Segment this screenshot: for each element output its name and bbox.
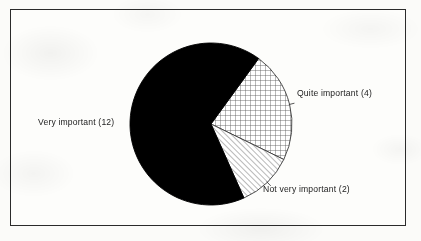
pie-label-very-important: Very important (12) [38,117,114,128]
pie-slices-group [130,43,292,205]
pie-chart-figure: Very important (12) Quite important (4) … [0,0,421,241]
pie-label-not-very-important: Not very important (2) [263,184,350,195]
pie-label-quite-important: Quite important (4) [297,88,372,99]
